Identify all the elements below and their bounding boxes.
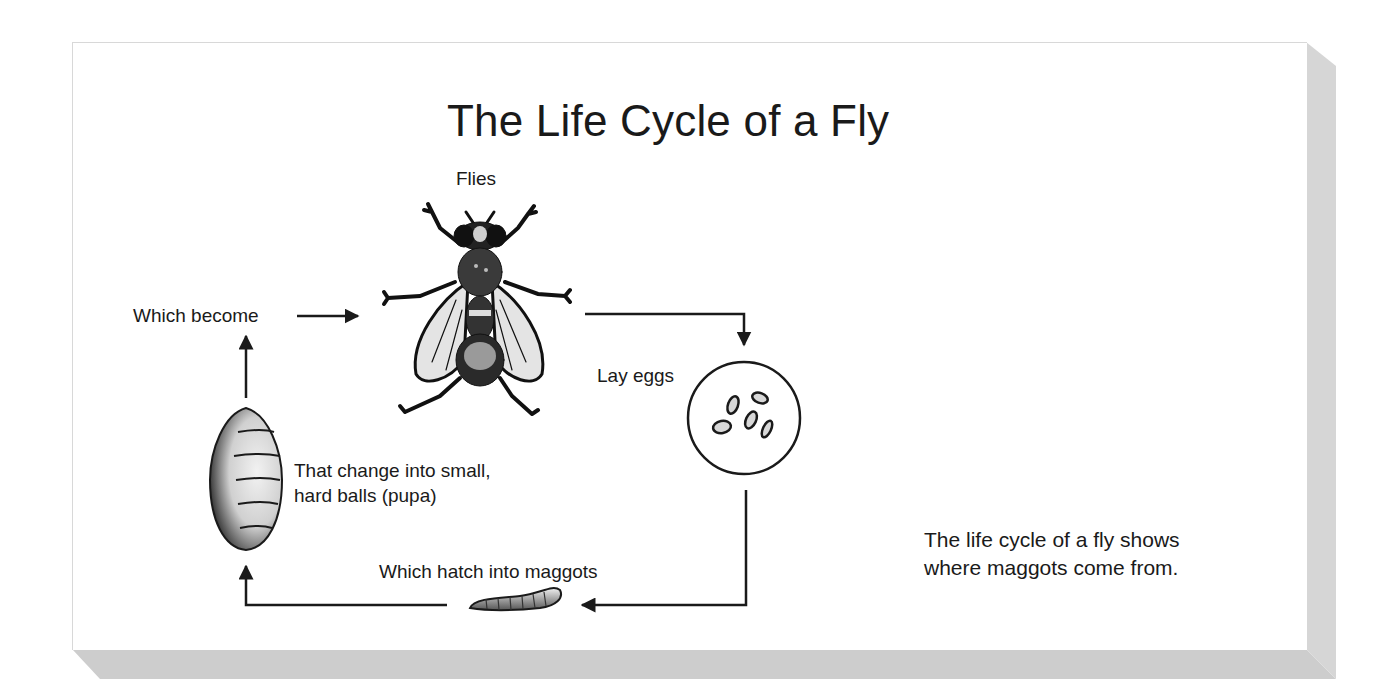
label-pupa: That change into small, hard balls (pupa… [294, 458, 490, 508]
eggs-icon [688, 362, 800, 474]
label-hatch-maggots: Which hatch into maggots [379, 561, 598, 583]
caption: The life cycle of a fly shows where magg… [924, 526, 1180, 582]
label-which-become: Which become [133, 305, 259, 327]
diagram-title: The Life Cycle of a Fly [447, 96, 889, 146]
label-pupa-line1: That change into small, [294, 458, 490, 483]
label-pupa-line2: hard balls (pupa) [294, 483, 490, 508]
fly-icon [384, 204, 570, 414]
caption-line2: where maggots come from. [924, 554, 1180, 582]
arrow-fly-to-eggs [585, 314, 744, 345]
caption-line1: The life cycle of a fly shows [924, 526, 1180, 554]
maggot-icon [470, 588, 561, 610]
label-lay-eggs: Lay eggs [597, 365, 674, 387]
label-flies: Flies [456, 168, 496, 190]
pupa-icon [210, 408, 282, 550]
arrow-eggs-to-maggots [582, 490, 746, 605]
